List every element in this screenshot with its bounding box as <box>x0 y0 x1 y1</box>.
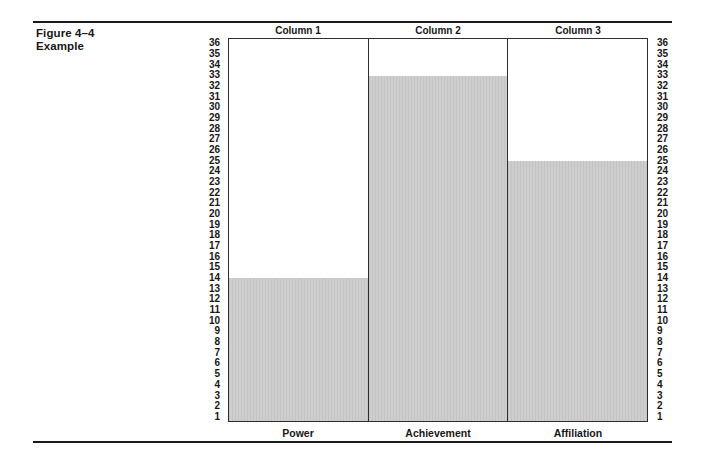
bottom-rule <box>33 441 672 443</box>
column-headers-row: Column 1Column 2Column 3 <box>228 25 648 36</box>
y-axis-left: 3635343332313029282726252423222120191817… <box>150 38 220 422</box>
y-tick-label: 9 <box>657 326 697 337</box>
figure-caption: Figure 4–4 Example <box>36 27 95 53</box>
chart-column-power <box>229 39 368 421</box>
y-tick-label: 8 <box>657 337 697 348</box>
y-tick-label: 35 <box>657 49 697 60</box>
column-header: Column 2 <box>368 25 508 36</box>
y-tick-label: 10 <box>657 315 697 326</box>
y-tick-label: 4 <box>657 380 697 391</box>
y-tick-label: 17 <box>150 241 220 252</box>
category-label: Power <box>228 427 368 439</box>
y-tick-label: 3 <box>150 390 220 401</box>
y-tick-label: 1 <box>657 412 697 423</box>
y-tick-label: 26 <box>657 145 697 156</box>
y-tick-label: 23 <box>657 177 697 188</box>
y-tick-label: 10 <box>150 315 220 326</box>
y-tick-label: 2 <box>657 401 697 412</box>
y-tick-label: 20 <box>657 209 697 220</box>
category-labels-row: PowerAchievementAffiliation <box>228 427 648 439</box>
bar-affiliation <box>508 161 647 421</box>
y-tick-label: 1 <box>150 412 220 423</box>
y-tick-label: 32 <box>150 81 220 92</box>
y-tick-label: 20 <box>150 209 220 220</box>
column-header: Column 3 <box>508 25 648 36</box>
y-tick-label: 3 <box>657 390 697 401</box>
category-label: Achievement <box>368 427 508 439</box>
y-tick-label: 35 <box>150 49 220 60</box>
y-tick-label: 32 <box>657 81 697 92</box>
y-tick-label: 2 <box>150 401 220 412</box>
category-label: Affiliation <box>508 427 648 439</box>
y-tick-label: 7 <box>150 347 220 358</box>
y-tick-label: 9 <box>150 326 220 337</box>
column-header: Column 1 <box>228 25 368 36</box>
y-tick-label: 6 <box>150 358 220 369</box>
top-rule <box>33 21 672 23</box>
figure-page: Figure 4–4 Example Column 1Column 2Colum… <box>0 0 705 455</box>
y-tick-label: 29 <box>150 113 220 124</box>
y-tick-label: 14 <box>657 273 697 284</box>
y-tick-label: 23 <box>150 177 220 188</box>
y-tick-label: 8 <box>150 337 220 348</box>
chart-column-achievement <box>368 39 508 421</box>
y-tick-label: 11 <box>657 305 697 316</box>
y-tick-label: 6 <box>657 358 697 369</box>
y-tick-label: 17 <box>657 241 697 252</box>
y-tick-label: 5 <box>150 369 220 380</box>
y-tick-label: 4 <box>150 380 220 391</box>
y-tick-label: 7 <box>657 347 697 358</box>
figure-subtitle: Example <box>36 40 95 53</box>
y-tick-label: 5 <box>657 369 697 380</box>
y-tick-label: 14 <box>150 273 220 284</box>
plot-area <box>228 38 648 422</box>
y-tick-label: 26 <box>150 145 220 156</box>
chart-column-affiliation <box>507 39 647 421</box>
bar-power <box>229 278 368 421</box>
y-tick-label: 29 <box>657 113 697 124</box>
bar-achievement <box>369 76 508 421</box>
y-tick-label: 11 <box>150 305 220 316</box>
y-axis-right: 3635343332313029282726252423222120191817… <box>657 38 697 422</box>
figure-number: Figure 4–4 <box>36 27 95 40</box>
